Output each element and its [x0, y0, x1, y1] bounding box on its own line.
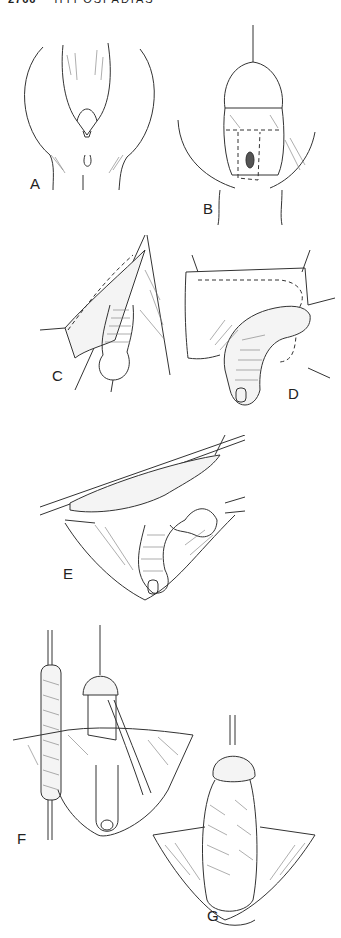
panel-label-c: C: [52, 367, 63, 384]
panel-label-f: F: [17, 830, 26, 847]
page-number: 2766: [8, 0, 36, 5]
illustration-panel-c: C: [35, 230, 180, 395]
illustration-d-drawing: [180, 250, 341, 410]
illustration-panel-e: E: [35, 435, 250, 610]
illustration-b-drawing: [170, 20, 330, 225]
illustration-panel-g: G: [145, 715, 320, 935]
illustration-panel-a: A: [15, 35, 155, 195]
panel-label-b: B: [203, 200, 213, 217]
illustration-panel-b: B: [170, 20, 330, 225]
illustration-panel-d: D: [180, 250, 341, 410]
panel-label-d: D: [288, 385, 299, 402]
panel-label-e: E: [63, 565, 73, 582]
illustration-a-drawing: [15, 35, 155, 195]
panel-label-a: A: [30, 175, 40, 192]
panel-label-g: G: [207, 907, 219, 924]
illustration-e-drawing: [35, 435, 250, 610]
running-header: 2766 HYPOSPADIAS: [8, 0, 155, 5]
running-title: HYPOSPADIAS: [55, 0, 155, 5]
illustration-g-drawing: [145, 715, 320, 935]
